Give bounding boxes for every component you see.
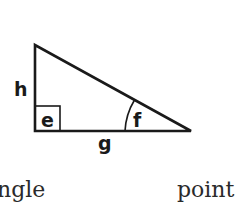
caption-left-word: ngle: [0, 179, 45, 201]
side-label-g: g: [98, 132, 112, 154]
diagram-canvas: h e f g ngle point: [0, 0, 244, 207]
side-label-h: h: [14, 78, 28, 100]
angle-label-f: f: [133, 109, 142, 131]
triangle-outline: [35, 45, 191, 131]
caption-right-word: point: [177, 179, 234, 201]
angle-label-e: e: [41, 109, 54, 131]
right-triangle-diagram: h e f g: [0, 0, 244, 207]
